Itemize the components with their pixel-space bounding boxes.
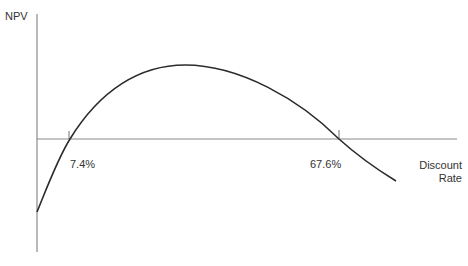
x-axis-label: Discount Rate xyxy=(419,159,462,185)
irr-low-label: 7.4% xyxy=(70,158,95,171)
y-axis-label: NPV xyxy=(5,10,28,23)
npv-chart xyxy=(0,0,468,266)
irr-high-label: 67.6% xyxy=(310,158,341,171)
x-axis-label-line2: Rate xyxy=(419,172,462,185)
x-axis-label-line1: Discount xyxy=(419,159,462,172)
